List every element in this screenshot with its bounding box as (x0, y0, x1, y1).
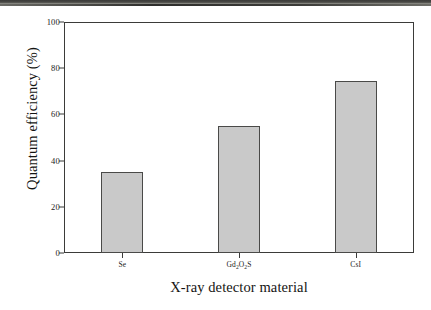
x-axis-tick-labels: Se Gd2O2S CsI (64, 260, 414, 274)
y-tick-label: 100 (47, 17, 60, 27)
bar-csi (335, 81, 377, 253)
x-tick-label-se: Se (118, 260, 126, 269)
bars-container (64, 22, 414, 253)
x-tick-mark (239, 253, 240, 258)
bar-se (101, 172, 143, 253)
y-tick-label: 60 (51, 109, 60, 119)
x-axis-title: X-ray detector material (64, 279, 414, 296)
y-tick-label: 40 (51, 156, 60, 166)
bar-chart-figure: 0 20 40 60 80 100 Quantum efficiency (%)… (0, 0, 431, 310)
x-axis-tick-marks (64, 253, 414, 259)
x-tick-label-csi: CsI (350, 260, 361, 269)
x-tick-mark (356, 253, 357, 258)
bar-gd2o2s (218, 126, 260, 253)
y-axis-title: Quantum efficiency (%) (24, 26, 41, 212)
y-tick-label: 0 (56, 248, 60, 258)
y-tick-label: 20 (51, 202, 60, 212)
y-axis-tick-labels: 0 20 40 60 80 100 (38, 22, 60, 253)
x-tick-label-gd2o2s: Gd2O2S (227, 260, 252, 270)
y-tick-label: 80 (51, 63, 60, 73)
x-tick-mark (122, 253, 123, 258)
